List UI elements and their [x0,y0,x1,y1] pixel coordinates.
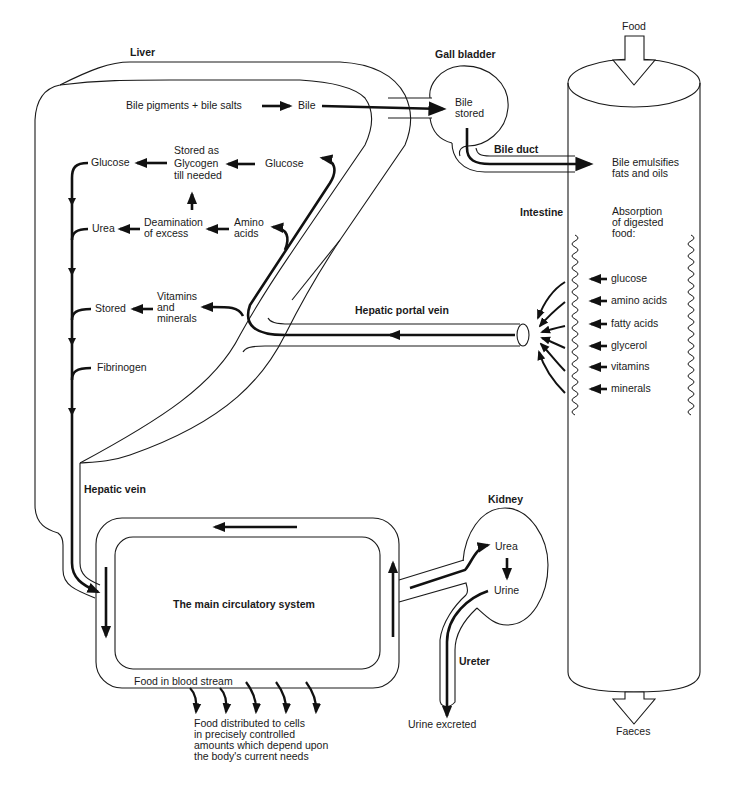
glycogen-label-2: Glycogen [174,157,219,169]
glucose-out-label: Glucose [91,156,130,168]
bile-to-gallbladder-arrow [322,106,443,109]
faeces-label: Faeces [616,725,650,737]
gall-bladder-label: Gall bladder [435,48,496,60]
vitamins-label-3: minerals [157,312,197,324]
kidney-urea-label: Urea [495,540,518,552]
hepatic-vein-label: Hepatic vein [84,483,146,495]
vitamins-branch-arrow [203,307,243,316]
nutrient-vitamins: vitamins [611,360,650,372]
hepatic-vein-duct [80,463,100,585]
nutrient-amino-acids: amino acids [611,294,667,306]
intestine-label: Intestine [520,206,563,218]
villi-right [688,235,694,415]
liver-inner-outline [60,80,371,463]
absorption-3: food: [612,227,635,239]
bile-label: Bile [298,99,316,111]
liver-label: Liver [130,46,155,58]
distribution-line-4: the body's current needs [194,750,309,762]
bile-effect-2: fats and oils [612,167,668,179]
hepatic-portal-vein: Hepatic portal vein [243,158,529,352]
absorbed-nutrient-list: glucose amino acids fatty acids glycerol… [591,272,667,394]
digestion-diagram: Hepatic portal vein Liver Bile pigments … [0,0,739,803]
gall-bladder-content-2: stored [455,107,484,119]
kidney-outline [463,508,548,625]
stored-label: Stored [95,302,126,314]
urine-excreted-label: Urine excreted [408,718,476,730]
nutrient-glycerol: glycerol [611,339,647,351]
hepatic-portal-vein-label: Hepatic portal vein [355,304,449,316]
amino-acids-branch-arrow [273,227,287,250]
kidney-label: Kidney [488,493,523,505]
nutrient-glucose: glucose [611,272,647,284]
nutrient-fatty-acids: fatty acids [611,317,658,329]
kidney: Kidney Urea Urine Ureter Urine excreted [399,493,548,730]
nutrient-minerals: minerals [611,382,651,394]
amino-acids-label-2: acids [234,227,259,239]
kidney-urine-label: Urine [494,584,519,596]
bile-source-label: Bile pigments + bile salts [126,99,242,111]
food-arrow [613,36,655,85]
food-label: Food [622,20,646,32]
faeces-arrow [613,692,655,724]
villi-left [572,235,578,415]
gall-bladder: Gall bladder Bile stored Bile duct [388,48,590,172]
absorption-fan-arrows [538,282,565,393]
glycogen-label-1: Stored as [174,144,219,156]
urea-label: Urea [92,222,115,234]
circulatory-system-label: The main circulatory system [173,598,315,610]
glucose-in-label: Glucose [265,157,304,169]
portal-vein-opening [517,324,529,346]
food-in-blood-label: Food in blood stream [134,675,233,687]
circulatory-system: The main circulatory system Food in bloo… [96,518,399,762]
intestine: Food Faeces Bile emulsifies fats and oil… [520,20,700,737]
ureter-label: Ureter [459,655,490,667]
glycogen-label-3: till needed [174,169,222,181]
bile-duct-label: Bile duct [494,143,539,155]
deamination-label-2: of excess [144,227,188,239]
fibrinogen-label: Fibrinogen [97,361,147,373]
